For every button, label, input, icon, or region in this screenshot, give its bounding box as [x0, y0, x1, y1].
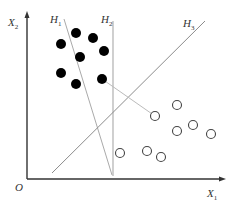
hollow-point [173, 101, 182, 110]
hollow-point [207, 130, 216, 139]
hyperplane-h1-label: H1 [49, 13, 62, 28]
solid-point [56, 68, 66, 78]
hyperplane-h2-label: H2 [100, 13, 113, 28]
y-axis-label: X2 [7, 16, 19, 31]
hollow-point [151, 112, 160, 121]
solid-point [71, 79, 81, 89]
solid-point [99, 46, 109, 56]
hollow-point [173, 127, 182, 136]
x-axis-arrow-icon [219, 177, 226, 182]
solid-point [97, 74, 107, 84]
hollow-point [143, 147, 152, 156]
svm-hyperplane-diagram: X2 H1 H2 H3 O X1 [0, 0, 232, 204]
y-axis-arrow-icon [25, 11, 30, 18]
hyperplane-h3-label: H3 [182, 17, 195, 32]
hollow-point [157, 153, 166, 162]
hollow-point [189, 121, 198, 130]
x-axis-label: X1 [206, 187, 218, 202]
axes [25, 11, 227, 182]
class-hollow-points [116, 101, 216, 162]
hyperplane-h1 [64, 19, 112, 175]
hollow-point [116, 149, 125, 158]
solid-point [88, 33, 98, 43]
solid-point [56, 39, 66, 49]
margin-connector-line [102, 79, 155, 116]
solid-point [71, 28, 81, 38]
origin-label: O [15, 181, 23, 193]
solid-point [75, 52, 85, 62]
